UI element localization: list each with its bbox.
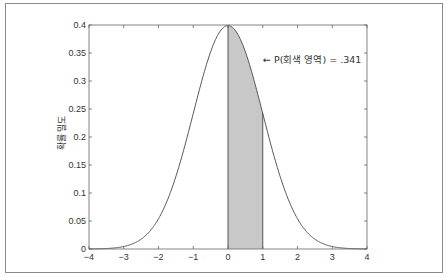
y-tick-label: 0.3 (73, 76, 86, 86)
shaded-area-annotation: ← P(회색 영역) = .341 (263, 54, 361, 65)
y-tick-label: 0.35 (68, 48, 86, 58)
x-tick-label: 1 (260, 252, 265, 262)
x-tick-label: 2 (295, 252, 300, 262)
y-tick-label: 0.4 (73, 20, 86, 30)
shaded-region (228, 26, 263, 249)
y-tick-label: 0.25 (68, 104, 86, 114)
chart-svg: −4−3−2−101234 00.050.10.150.20.250.30.35… (0, 0, 447, 278)
y-tick-label: 0 (81, 244, 86, 254)
y-tick-label: 0.15 (68, 160, 86, 170)
y-tick-label: 0.1 (73, 188, 86, 198)
y-axis-label: 확률 밀도 (56, 116, 67, 151)
x-tick-label: 4 (364, 252, 369, 262)
x-tick-label: 0 (225, 252, 230, 262)
x-tick-label: −3 (119, 252, 129, 262)
y-tick-label: 0.2 (73, 132, 86, 142)
y-tick-label: 0.05 (68, 216, 86, 226)
x-tick-label: 3 (330, 252, 335, 262)
x-tick-label: −2 (153, 252, 163, 262)
x-tick-label: −1 (188, 252, 198, 262)
